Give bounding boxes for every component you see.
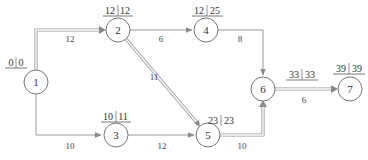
node-4: 4 — [194, 18, 218, 42]
edge-1-2-critical: 12 — [36, 26, 106, 70]
node-2-es: 12 — [105, 5, 115, 16]
node-2: 2 — [106, 18, 130, 42]
edge-1-3: 10 — [36, 94, 101, 151]
node-6: 6 — [251, 77, 275, 101]
edge-6-7-critical: 6 — [275, 85, 338, 105]
node-7: 7 — [338, 77, 362, 101]
node-7-label: 7 — [347, 83, 353, 95]
edge-1-2-duration: 12 — [66, 34, 75, 44]
edge-1-3-duration: 10 — [66, 141, 76, 151]
node-2-ls: 12 — [120, 5, 130, 16]
edge-4-6: 8 — [218, 30, 263, 75]
node-5-label: 5 — [205, 129, 211, 141]
edge-5-6-duration: 10 — [238, 141, 248, 151]
edge-4-6-duration: 8 — [238, 34, 243, 44]
node-1-times: 0 0 — [5, 57, 27, 68]
node-6-times: 33 33 — [286, 69, 318, 80]
network-diagram: 10 6 12 8 12 11 10 6 1 — [0, 0, 368, 160]
edge-2-5-critical: 11 — [126, 39, 200, 127]
node-5-ls: 23 — [224, 115, 234, 126]
node-6-ls: 33 — [305, 69, 315, 80]
node-5-es: 23 — [208, 115, 218, 126]
edge-2-4-duration: 6 — [159, 34, 164, 44]
node-1-ls: 0 — [19, 57, 24, 68]
node-4-label: 4 — [203, 24, 209, 36]
node-2-times: 12 12 — [103, 5, 133, 16]
node-1-es: 0 — [9, 57, 14, 68]
node-1-label: 1 — [33, 76, 39, 88]
node-3: 3 — [104, 123, 128, 147]
node-5: 5 — [196, 123, 220, 147]
node-3-es: 10 — [103, 111, 113, 122]
node-4-ls: 25 — [210, 5, 220, 16]
node-3-ls: 11 — [118, 111, 128, 122]
node-4-es: 12 — [194, 5, 204, 16]
edge-2-4: 6 — [130, 30, 192, 44]
node-3-label: 3 — [113, 129, 119, 141]
node-7-times: 39 39 — [333, 63, 365, 74]
node-6-es: 33 — [289, 69, 299, 80]
edge-2-5-duration: 11 — [150, 72, 159, 82]
node-3-times: 10 11 — [101, 111, 131, 122]
node-6-label: 6 — [260, 83, 266, 95]
node-1: 1 — [24, 70, 48, 94]
node-5-times: 23 23 — [208, 115, 234, 126]
edge-3-5: 12 — [128, 135, 194, 151]
node-7-ls: 39 — [352, 63, 362, 74]
node-2-label: 2 — [115, 24, 121, 36]
node-4-times: 12 25 — [192, 5, 223, 16]
edge-6-7-duration: 6 — [302, 95, 307, 105]
node-7-es: 39 — [336, 63, 346, 74]
edge-3-5-duration: 12 — [158, 141, 167, 151]
